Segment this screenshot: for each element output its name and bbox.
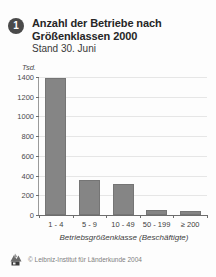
bar-10-49 [113,184,134,215]
x-tick-mark [106,215,107,218]
copyright-text: © Leibniz-Institut für Länderkunde 2004 [28,252,142,267]
y-tick-label: 800 [21,132,34,141]
x-axis-ticks [39,215,207,219]
x-axis-tick-labels: 1 - 45 - 910 - 4950 - 199≥ 200 [39,220,207,232]
y-tick-label: 1200 [17,92,34,101]
bars-layer [39,77,207,215]
y-axis-unit-label: Tsd. [22,63,36,72]
bar-1-4 [45,78,66,216]
x-tick-label: 50 - 199 [143,220,171,229]
figure-subtitle: Stand 30. Juni [32,43,208,55]
leibniz-institut-logo-icon [9,252,23,267]
figure-footer: © Leibniz-Institut für Länderkunde 2004 [9,252,142,267]
title-block: Anzahl der Betriebe nach Größenklassen 2… [32,17,208,55]
figure-title: Anzahl der Betriebe nach Größenklassen 2… [32,17,208,42]
y-tick-label: 600 [21,151,34,160]
chart-plot-area: 0200400600800100012001400 1 - 45 - 910 -… [39,77,207,215]
bar-5-9 [79,180,100,215]
y-tick-label: 1000 [17,112,34,121]
x-tick-label: 10 - 49 [111,220,134,229]
figure-number-badge: 1 [8,18,24,34]
x-tick-mark [140,215,141,218]
y-tick-label: 400 [21,171,34,180]
x-tick-mark [207,215,208,218]
y-tick-label: 200 [21,191,34,200]
figure-header: 1 Anzahl der Betriebe nach Größenklassen… [8,17,208,55]
x-tick-mark [39,215,40,218]
x-tick-mark [173,215,174,218]
x-axis-title: Betriebsgrößenklasse (Beschäftigte) [39,233,209,242]
x-tick-label: ≥ 200 [181,220,200,229]
y-tick-label: 1400 [17,73,34,82]
x-tick-mark [73,215,74,218]
y-tick-label: 0 [30,211,34,220]
x-tick-label: 1 - 4 [48,220,63,229]
x-tick-label: 5 - 9 [82,220,97,229]
figure-panel: 1 Anzahl der Betriebe nach Größenklassen… [0,0,216,277]
